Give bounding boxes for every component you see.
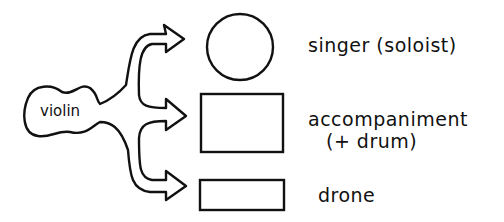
drone-rectangle [200,180,284,210]
accompaniment-label: accompaniment [308,108,468,130]
violin-label: violin [40,102,80,120]
singer-circle [207,14,273,80]
drone-label: drone [318,184,375,206]
accompaniment-sublabel: (+ drum) [326,130,417,152]
accompaniment-rectangle [201,94,283,152]
singer-label: singer (soloist) [308,34,457,56]
